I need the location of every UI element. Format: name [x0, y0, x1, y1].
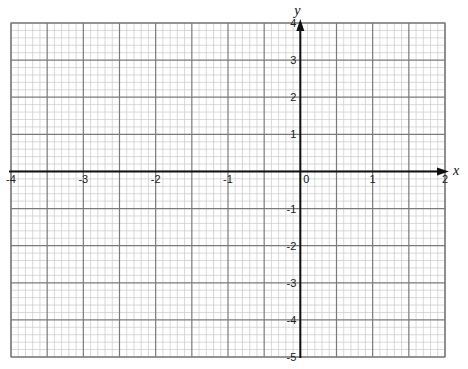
- coordinate-grid: -4-3-2-10124321-1-2-3-4-5 x y: [0, 0, 468, 369]
- y-axis-label: y: [292, 3, 301, 18]
- x-tick-label: 0: [303, 173, 309, 185]
- y-axis-arrow-icon: [296, 19, 304, 31]
- y-tick-label: -2: [287, 240, 297, 252]
- y-tick-label: -3: [287, 277, 297, 289]
- x-tick-label: -4: [6, 173, 16, 185]
- y-tick-label: 3: [290, 54, 296, 66]
- axes: [9, 19, 449, 358]
- y-tick-label: -1: [287, 203, 297, 215]
- y-tick-label: -5: [287, 351, 297, 363]
- x-tick-label: -1: [223, 173, 233, 185]
- x-tick-label: -2: [151, 173, 161, 185]
- x-tick-label: 2: [442, 173, 448, 185]
- y-tick-label: 2: [290, 91, 296, 103]
- y-tick-label: 1: [290, 128, 296, 140]
- x-tick-label: 1: [370, 173, 376, 185]
- y-tick-label: -4: [287, 314, 297, 326]
- tick-labels: -4-3-2-10124321-1-2-3-4-5: [6, 17, 448, 363]
- x-axis-label: x: [452, 163, 460, 178]
- x-tick-label: -3: [78, 173, 88, 185]
- y-tick-label: 4: [290, 17, 296, 29]
